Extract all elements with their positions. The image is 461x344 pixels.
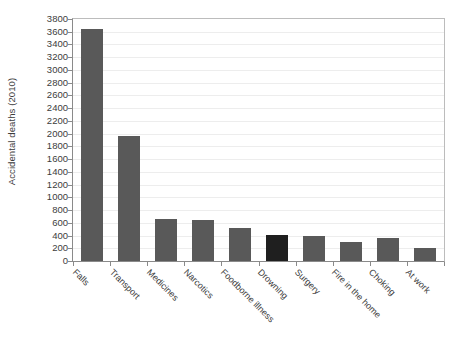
y-axis-tick-label: 1000 [24,193,68,203]
y-axis-tick-label: 3400 [24,40,68,50]
x-axis-tick-mark [370,262,371,266]
x-axis-tick-mark [259,262,260,266]
x-axis-labels: FallsTransportMedicinesNarcoticsFoodborn… [73,267,461,344]
y-axis-tick-labels: 0200400600800100012001400160018002000220… [18,18,68,262]
x-axis-tick-label: Narcotics [182,267,216,301]
bar-slot [221,19,258,261]
x-axis-tick-mark [184,262,185,266]
y-axis-tick-label: 2000 [24,129,68,139]
bar-slot [184,19,221,261]
x-axis-tick-label: Surgery [293,267,322,296]
y-axis-tick-label: 2800 [24,78,68,88]
bar[interactable] [266,235,288,261]
y-axis-tick-label: 3600 [24,27,68,37]
x-axis-tick-label: Medicines [145,267,181,303]
bar-slot [259,19,296,261]
bar-slot [73,19,110,261]
bar-slot [407,19,444,261]
x-axis-tick-mark [407,262,408,266]
x-axis-tick-label: Choking [367,267,397,297]
bar[interactable] [377,238,399,261]
bar[interactable] [229,228,251,261]
y-axis-tick-label: 2600 [24,91,68,101]
y-axis-tick-label: 3200 [24,52,68,62]
y-axis-tick-label: 800 [24,205,68,215]
x-axis-tick-label: Transport [108,267,142,301]
x-axis-tick-label: Drowning [256,267,290,301]
bar[interactable] [303,236,325,261]
x-axis-tick-mark [333,262,334,266]
x-axis-tick-mark [221,262,222,266]
y-axis-tick-label: 600 [24,218,68,228]
y-axis-tick-label: 1800 [24,142,68,152]
bar[interactable] [118,136,140,261]
bar[interactable] [340,242,362,261]
bar-slot [110,19,147,261]
x-axis-tick-mark [296,262,297,266]
x-axis-tick-label: At work [404,267,432,295]
bar-slot [147,19,184,261]
y-axis-tick-label: 1400 [24,167,68,177]
bar-slot [333,19,370,261]
bar-slot [296,19,333,261]
x-axis-tick-mark [73,262,74,266]
y-axis-tick-label: 3800 [24,14,68,24]
y-axis-tick-label: 200 [24,244,68,254]
x-axis-tick-label: Falls [70,267,91,288]
bars-layer [73,19,444,261]
y-axis-tick-label: 2400 [24,103,68,113]
y-axis-tick-label: 0 [24,256,68,266]
bar[interactable] [192,220,214,261]
x-axis-tick-mark [147,262,148,266]
y-axis-tick-label: 400 [24,231,68,241]
bar-chart: Accidental deaths (2010) 020040060080010… [0,0,461,344]
bar[interactable] [81,29,103,261]
bar[interactable] [414,248,436,261]
y-axis-title-text: Accidental deaths (2010) [7,77,18,185]
x-axis-tick-mark [444,262,445,266]
y-axis-tick-label: 2200 [24,116,68,126]
bar[interactable] [155,219,177,261]
y-axis-tick-label: 3000 [24,65,68,75]
y-axis-tick-label: 1200 [24,180,68,190]
y-axis-tick-label: 1600 [24,154,68,164]
x-axis-tick-mark [110,262,111,266]
bar-slot [370,19,407,261]
